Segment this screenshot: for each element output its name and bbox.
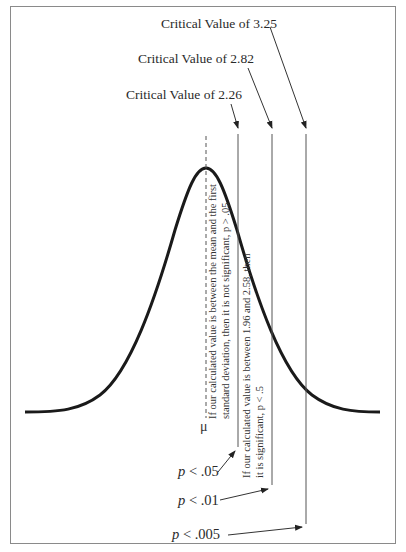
significant-line1: If our calculated value is between 1.96 … <box>241 253 254 478</box>
arrow-2-82 <box>248 68 272 128</box>
not-significant-note: If our calculated value is between the m… <box>207 184 232 419</box>
normal-curve <box>25 168 380 412</box>
critical-label-3-25: Critical Value of 3.25 <box>161 16 277 32</box>
arrow-2-26 <box>231 104 238 128</box>
p-label-01: p < .01 <box>178 492 219 509</box>
significant-line2: it is significant, p < .5 <box>254 253 267 478</box>
critical-label-2-26: Critical Value of 2.26 <box>126 87 242 103</box>
p-label-005: p < .005 <box>172 526 220 543</box>
not-significant-line1: If our calculated value is between the m… <box>207 184 220 419</box>
arrow-p005 <box>228 527 302 535</box>
arrow-p05 <box>218 451 235 472</box>
mean-symbol: μ <box>200 419 208 435</box>
critical-label-2-82: Critical Value of 2.82 <box>138 51 254 67</box>
p-label-05: p < .05 <box>178 463 219 480</box>
arrow-3-25 <box>270 27 306 128</box>
significant-note: If our calculated value is between 1.96 … <box>241 253 266 478</box>
arrow-p01 <box>220 489 268 500</box>
not-significant-line2: standard deviation, then it is not signi… <box>220 184 233 419</box>
